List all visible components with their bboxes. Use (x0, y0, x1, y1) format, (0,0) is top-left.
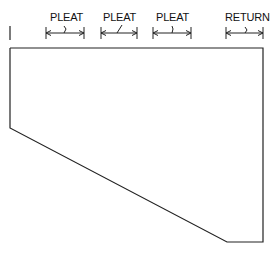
dimension-label: RETURN (225, 11, 270, 23)
dimension-pleat-1: PLEAT (46, 11, 84, 39)
dimension-label: PLEAT (50, 11, 84, 23)
dimension-pleat-2: PLEAT (101, 11, 137, 39)
panel-outline (10, 48, 263, 242)
dimension-pleat-3: PLEAT (153, 11, 191, 39)
dimension-return: RETURN (225, 11, 270, 39)
panel-diagram: PLEAT PLEAT PLEAT RETURN (0, 0, 278, 273)
dimension-label: PLEAT (103, 11, 137, 23)
dimension-label: PLEAT (156, 11, 190, 23)
